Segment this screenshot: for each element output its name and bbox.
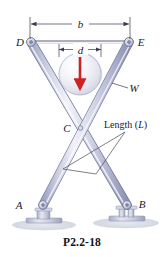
- support-base-a: [26, 208, 62, 223]
- dimension-b-label: b: [78, 18, 84, 30]
- label-weight-w: W: [129, 82, 139, 94]
- dimension-d-label: d: [78, 44, 84, 56]
- dimension-d: d: [59, 43, 101, 57]
- pin-joint-e: [125, 38, 134, 47]
- label-length-l: Length (L): [104, 119, 147, 131]
- label-point-b: B: [139, 198, 146, 210]
- length-suffix: ): [144, 119, 147, 131]
- pin-joint-d: [27, 38, 36, 47]
- figure-caption: P2.2-18: [0, 236, 164, 248]
- label-point-c: C: [63, 122, 71, 134]
- dimension-b: b: [30, 17, 130, 39]
- label-point-e: E: [137, 36, 145, 48]
- leader-line-w: [112, 83, 128, 88]
- pin-joint-c: [78, 126, 83, 131]
- statics-diagram-svg: b d D E C A B W Le: [0, 0, 164, 257]
- label-point-a: A: [15, 199, 23, 211]
- pin-joint-b: [123, 201, 131, 209]
- length-prefix: Length (: [104, 119, 139, 131]
- label-point-d: D: [15, 36, 24, 48]
- figure-container: b d D E C A B W Le: [0, 0, 164, 257]
- pin-joint-a: [39, 201, 47, 209]
